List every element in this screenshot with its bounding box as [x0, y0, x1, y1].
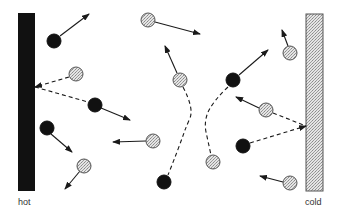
cold-particle-icon — [283, 176, 297, 190]
hot-particle-icon — [47, 34, 61, 48]
collision-paths — [35, 87, 306, 175]
hot-wall — [18, 13, 35, 191]
hot-particle-icon — [226, 73, 240, 87]
dashed-path — [35, 87, 88, 102]
arrow-icon — [155, 22, 200, 34]
arrow-icon — [282, 30, 288, 46]
cold-label: cold — [305, 197, 322, 207]
cold-particle-icon — [206, 155, 220, 169]
cold-particle-icon — [173, 73, 187, 87]
cold-particle-icon — [69, 67, 83, 81]
arrow-icon — [60, 14, 89, 36]
hot-particle-icon — [88, 98, 102, 112]
hot-particle-icon — [157, 175, 171, 189]
arrow-icon — [239, 50, 268, 75]
cold-particle-icon — [283, 46, 297, 60]
hot-particle-icon — [236, 139, 250, 153]
particles — [40, 13, 297, 190]
dashed-path — [273, 113, 306, 126]
dashed-path — [168, 87, 191, 175]
velocity-arrows — [35, 14, 306, 189]
arrow-icon — [260, 176, 283, 182]
cold-particle-icon — [77, 159, 91, 173]
arrow-icon — [165, 46, 177, 73]
arrow-icon — [236, 97, 259, 108]
arrow-icon — [250, 126, 306, 143]
dashed-path — [205, 87, 228, 155]
arrow-icon — [35, 77, 69, 87]
heat-conduction-diagram — [0, 0, 341, 215]
cold-particle-icon — [146, 134, 160, 148]
cold-particle-icon — [259, 103, 273, 117]
arrow-icon — [51, 134, 72, 152]
arrow-icon — [101, 108, 130, 120]
cold-wall — [306, 14, 323, 191]
hot-label: hot — [18, 197, 31, 207]
hot-particle-icon — [40, 121, 54, 135]
cold-particle-icon — [141, 13, 155, 27]
arrow-icon — [113, 141, 146, 142]
arrow-icon — [65, 171, 80, 189]
